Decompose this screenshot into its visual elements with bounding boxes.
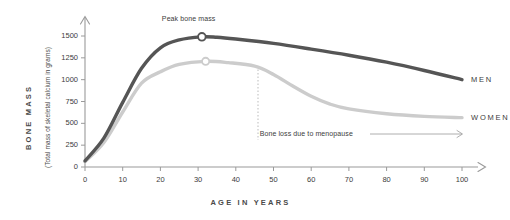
x-tick-label: 20	[148, 175, 172, 184]
x-tick-label: 90	[412, 175, 436, 184]
x-axis-arrow-icon	[478, 163, 486, 172]
y-tick-label: 1500	[48, 31, 78, 40]
x-tick-label: 80	[375, 175, 399, 184]
series-line-men	[85, 37, 462, 161]
y-tick-marks	[81, 36, 85, 167]
x-axis	[85, 163, 486, 172]
x-tick-label: 40	[224, 175, 248, 184]
x-tick-label: 50	[262, 175, 286, 184]
y-tick-label: 0	[48, 162, 78, 171]
y-tick-label: 750	[48, 97, 78, 106]
series-line-women	[85, 61, 462, 161]
annotation-bone-loss-menopause: Bone loss due to menopause	[260, 130, 353, 137]
x-tick-label: 60	[299, 175, 323, 184]
y-tick-label: 1000	[48, 75, 78, 84]
annotation-peak-bone-mass: Peak bone mass	[162, 15, 216, 22]
y-tick-label: 250	[48, 140, 78, 149]
y-tick-label: 500	[48, 118, 78, 127]
y-axis	[81, 17, 90, 168]
x-tick-label: 70	[337, 175, 361, 184]
menopause-arrow	[370, 131, 463, 138]
x-axis-title: AGE IN YEARS	[0, 198, 501, 207]
x-tick-marks	[85, 167, 462, 171]
y-tick-label: 1250	[48, 53, 78, 62]
x-tick-label: 10	[111, 175, 135, 184]
x-tick-label: 30	[186, 175, 210, 184]
peak-marker-women	[202, 58, 209, 65]
series-label-men: MEN	[471, 75, 493, 84]
peak-marker-men	[198, 33, 206, 41]
y-axis-subtitle-wrap: (Total mass of skeletal calcium in grams…	[44, 47, 51, 168]
x-tick-label: 0	[73, 175, 97, 184]
y-axis-title-wrap: BONE MASS	[24, 85, 33, 150]
x-tick-label: 100	[450, 175, 474, 184]
series-label-women: WOMEN	[471, 113, 510, 122]
y-axis-title: BONE MASS	[24, 85, 33, 150]
y-axis-subtitle: (Total mass of skeletal calcium in grams…	[44, 47, 51, 168]
